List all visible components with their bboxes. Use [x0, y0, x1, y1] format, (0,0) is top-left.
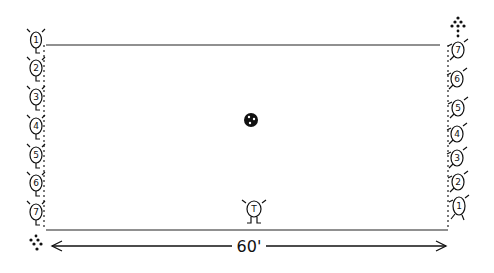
right-player-number: 5	[455, 103, 461, 113]
left-player-number: 3	[33, 92, 39, 102]
left-player-number: 1	[33, 35, 39, 45]
right-player-number: 7	[455, 45, 461, 55]
right-player-number: 1	[456, 201, 462, 211]
right-player-number: 4	[454, 129, 460, 139]
left-player-number: 2	[33, 63, 39, 73]
right-team-direction-dots	[450, 16, 465, 37]
field-boundary	[44, 45, 448, 230]
left-player-number: 4	[33, 121, 39, 131]
width-label: 60'	[237, 237, 262, 256]
field-diagram: 1 2 3 4 5 6 7 7 6 5 4 3 2 1	[0, 0, 494, 273]
right-player-number: 2	[455, 177, 461, 187]
left-team-numbers: 1 2 3 4 5 6 7	[33, 35, 39, 217]
right-player-number: 3	[454, 153, 460, 163]
right-player-number: 6	[454, 74, 460, 84]
left-player-number: 6	[33, 178, 39, 188]
ball-icon	[244, 113, 258, 127]
left-player-number: 7	[33, 207, 39, 217]
left-player-number: 5	[33, 150, 39, 160]
official-label: T	[250, 204, 257, 214]
left-team-direction-dots	[29, 235, 42, 251]
